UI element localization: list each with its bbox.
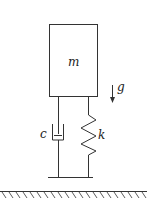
mass-label: m [68, 55, 79, 69]
damper-label: c [40, 127, 47, 141]
ground-hatch [2, 192, 146, 198]
spring-label: k [98, 128, 105, 142]
gravity-arrowhead-icon [110, 97, 115, 103]
spring [81, 96, 96, 177]
gravity-label: g [117, 80, 125, 94]
mass-spring-damper-diagram: m c k g [0, 0, 147, 208]
damper [53, 96, 64, 177]
